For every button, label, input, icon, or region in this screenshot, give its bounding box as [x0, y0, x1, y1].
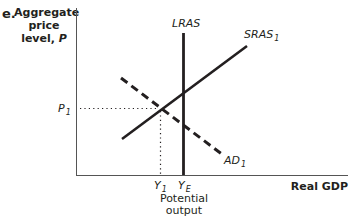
ad-label: AD1 — [223, 154, 246, 169]
as-ad-diagram: LRAS SRAS1 AD1 P1 Y1 YE Potential output… — [0, 0, 357, 221]
x-axis-label: Real GDP — [291, 180, 348, 193]
potential-output-caption-line2: output — [166, 204, 203, 217]
lras-label: LRAS — [172, 17, 200, 30]
p1-label: P1 — [58, 102, 71, 117]
sras-label: SRAS1 — [244, 28, 279, 43]
ad-curve — [121, 78, 223, 155]
